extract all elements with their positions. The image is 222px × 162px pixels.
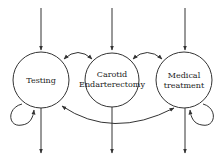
self-loop-testing <box>11 104 34 125</box>
node-medical-treatment: Medical treatment <box>156 52 212 108</box>
arc-testing-medical <box>62 106 174 124</box>
node-medical-label-line2: treatment <box>164 81 205 90</box>
self-loop-medical <box>190 104 213 125</box>
node-medical-label-line1: Medical <box>168 71 201 80</box>
node-carotid-label-line2: Endarterectomy <box>79 80 145 89</box>
node-testing-label: Testing <box>26 76 56 85</box>
node-carotid-label-line1: Carotid <box>97 70 127 79</box>
markov-state-diagram: Testing Carotid Endarterectomy Medical t… <box>0 0 222 162</box>
node-testing: Testing <box>13 52 69 108</box>
arc-carotid-medical <box>133 53 162 60</box>
node-carotid-endarterectomy: Carotid Endarterectomy <box>79 53 145 107</box>
arc-testing-carotid <box>64 53 92 60</box>
